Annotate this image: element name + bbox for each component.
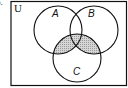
set-label-b: B [88,8,95,19]
set-label-c: C [73,66,80,77]
set-label-a: A [52,8,59,19]
universe-label: U [14,2,22,14]
